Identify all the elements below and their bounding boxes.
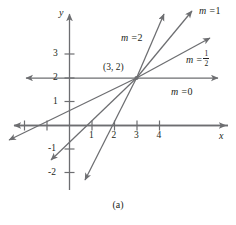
y-tick-label-neg1: -1 bbox=[48, 144, 56, 154]
x-tick-label-2: 2 bbox=[112, 131, 117, 141]
y-tick-label-neg2: -2 bbox=[48, 168, 56, 178]
x-tick-label-3: 3 bbox=[134, 131, 139, 141]
y-tick-label-1: 1 bbox=[53, 97, 58, 107]
line-m-half-left bbox=[9, 78, 137, 140]
slope-annotation-m-1-prefix: m = bbox=[199, 5, 215, 16]
line-m-2-right bbox=[137, 14, 165, 78]
slope-annotation-m-half-prefix: m = bbox=[186, 54, 202, 65]
slope-annotation-m-2: m =2 bbox=[121, 33, 142, 43]
line-m-1-right bbox=[137, 11, 193, 78]
slope-annotation-m-0-prefix: m = bbox=[171, 86, 187, 97]
y-tick-label-3: 3 bbox=[53, 49, 58, 59]
fraction-denominator: 2 bbox=[203, 60, 209, 68]
slope-annotation-m-1-value: 1 bbox=[215, 5, 220, 16]
slope-annotation-m-1: m =1 bbox=[199, 6, 220, 16]
common-point-marker bbox=[134, 76, 138, 80]
x-tick-label-4: 4 bbox=[157, 131, 162, 141]
figure-caption: (a) bbox=[0, 200, 236, 210]
figure-container: x y 1 2 3 4 3 2 1 -1 -2 (3, 2) m =2 m =1… bbox=[0, 0, 236, 225]
slope-annotation-m-2-value: 2 bbox=[137, 32, 142, 43]
x-tick-label-1: 1 bbox=[89, 131, 94, 141]
slope-annotation-m-2-prefix: m = bbox=[121, 32, 137, 43]
coordinate-plane-graphic bbox=[0, 0, 236, 225]
point-label-3-2: (3, 2) bbox=[103, 63, 124, 73]
fraction-one-half: 12 bbox=[203, 50, 209, 68]
y-tick-label-2: 2 bbox=[53, 73, 58, 83]
slope-annotation-m-half: m =12 bbox=[186, 50, 209, 68]
fraction-numerator: 1 bbox=[203, 50, 209, 58]
slope-annotation-m-0: m =0 bbox=[171, 87, 192, 97]
line-m-1-left bbox=[51, 78, 137, 160]
line-m-2-left bbox=[85, 78, 137, 180]
slope-annotation-m-0-value: 0 bbox=[187, 86, 192, 97]
x-axis-label: x bbox=[219, 131, 223, 141]
y-axis-label: y bbox=[59, 8, 63, 18]
